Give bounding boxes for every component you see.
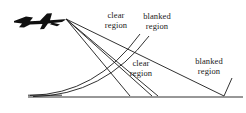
sensor-ray-stub (224, 78, 232, 96)
label-blanked-region-upper: blanked region (134, 12, 180, 31)
label-blanked-region-upper-line2: region (134, 22, 180, 32)
aircraft-silhouette (14, 13, 66, 29)
label-clear-region-upper-line2: region (96, 21, 136, 31)
label-blanked-region-lower-line2: region (186, 67, 232, 77)
label-clear-region-lower: clear region (121, 59, 161, 78)
label-clear-region-upper: clear region (96, 11, 136, 30)
label-clear-region-lower-line2: region (121, 69, 161, 79)
label-blanked-region-lower: blanked region (186, 57, 232, 76)
radar-coverage-diagram: clear region blanked region clear region… (0, 0, 246, 113)
